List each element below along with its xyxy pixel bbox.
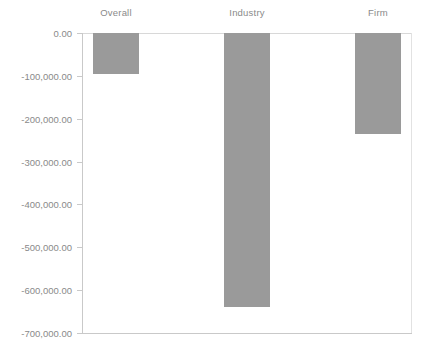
y-axis-tick-mark	[77, 290, 82, 291]
x-axis-line	[82, 333, 412, 334]
bar-industry	[224, 33, 270, 307]
y-axis-tick-mark	[77, 162, 82, 163]
bar-firm	[355, 33, 401, 134]
bar-overall	[93, 33, 139, 74]
category-label-firm: Firm	[355, 7, 401, 19]
category-label-overall: Overall	[93, 7, 139, 19]
y-axis-tick-label: -500,000.00	[21, 242, 72, 253]
y-axis-tick-mark	[77, 76, 82, 77]
y-axis-tick-label: -400,000.00	[21, 199, 72, 210]
y-axis-tick-mark	[77, 333, 82, 334]
y-axis-tick-label: -700,000.00	[21, 328, 72, 339]
y-axis-tick-mark	[77, 33, 82, 34]
y-axis-tick-label: -100,000.00	[21, 70, 72, 81]
y-axis-tick-mark	[77, 247, 82, 248]
category-label-industry: Industry	[224, 7, 270, 19]
y-axis-tick-label: -200,000.00	[21, 113, 72, 124]
bar-chart: 0.00-100,000.00-200,000.00-300,000.00-40…	[0, 0, 431, 356]
y-axis-tick-mark	[77, 204, 82, 205]
y-axis-line	[82, 33, 83, 333]
plot-right-border	[411, 33, 412, 333]
y-axis-tick-label: -300,000.00	[21, 156, 72, 167]
y-axis-tick-label: 0.00	[54, 28, 73, 39]
y-axis-tick-mark	[77, 119, 82, 120]
y-axis-tick-label: -600,000.00	[21, 285, 72, 296]
